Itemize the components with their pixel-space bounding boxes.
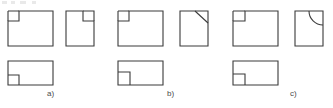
orthographic-projection-figure: a) b) c) [0,0,333,108]
group-c-front-view-notch-edges [233,11,245,21]
group-label-a: a) [47,89,54,99]
group-b-top-view-outline [118,61,163,85]
group-a-front-view-notch-edges [8,11,19,21]
group-a-side-view-notch-edges [83,11,94,21]
group-c-top-view-outline [233,61,278,85]
group-a-front-view-outline [8,11,53,46]
top-edge-artifact-4 [32,1,36,4]
group-label-c: c) [290,89,297,99]
top-edge-artifact-2 [11,1,15,4]
group-b-front-view-outline [118,11,163,46]
group-c-side-view-outline [295,11,323,46]
group-label-b: b) [167,89,174,99]
group-b-front-view-notch-edges [118,11,129,21]
group-a-top-view-outline [8,61,53,85]
group-a-top-view-notch-lines [8,75,19,85]
top-edge-artifact-1 [2,1,7,4]
group-c-side-view-fillet-arc [309,11,323,25]
group-b-top-view-notch-lines [118,72,130,85]
group-c-top-view-notch-lines [233,74,245,85]
top-edge-artifact-3 [20,1,26,4]
group-c-front-view-outline [233,11,278,46]
group-a-side-view-outline [66,11,94,46]
group-c [233,11,323,85]
group-b [118,11,208,85]
group-b-side-view-outline [180,11,208,46]
group-b-side-view-chamfer-line [195,11,208,23]
group-a [8,11,94,85]
